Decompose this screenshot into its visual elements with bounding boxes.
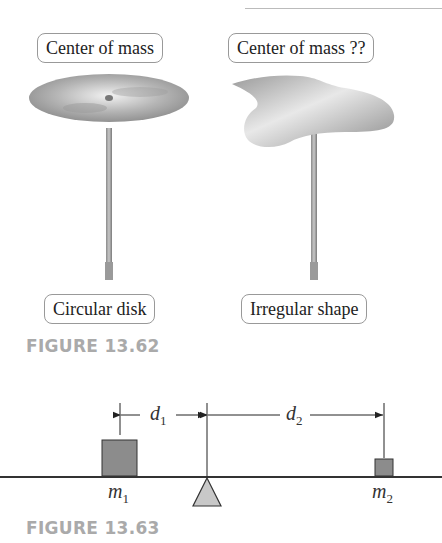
label-center-of-mass-unknown: Center of mass ??: [228, 33, 374, 63]
left-rod-tip: [105, 262, 113, 280]
label-d1: d1: [150, 402, 167, 429]
mass-1-block: [102, 440, 137, 476]
label-m1: m1: [108, 480, 129, 507]
label-m2: m2: [372, 480, 393, 507]
label-d2: d2: [286, 402, 303, 429]
mass-2-block: [375, 459, 393, 476]
right-rod: [311, 130, 317, 280]
left-rod: [106, 128, 112, 280]
fulcrum-triangle: [193, 478, 221, 506]
label-center-of-mass: Center of mass: [37, 33, 163, 63]
label-circular-disk: Circular disk: [44, 294, 155, 324]
right-rod-tip: [310, 262, 318, 280]
center-of-mass-dot: [105, 95, 113, 101]
top-rule: [245, 8, 442, 9]
label-irregular-shape: Irregular shape: [241, 294, 367, 324]
disk-and-plate-illustration: [0, 70, 442, 290]
figure-caption-13-63: FIGURE 13.63: [26, 518, 160, 538]
figure-caption-13-62: FIGURE 13.62: [26, 336, 160, 356]
